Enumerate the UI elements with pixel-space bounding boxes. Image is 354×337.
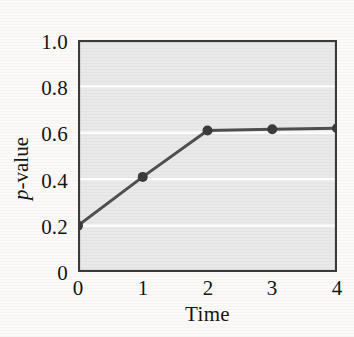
x-tick-label-2: 2	[193, 276, 223, 301]
x-axis-ticks: 0 1 2 3 4	[0, 0, 354, 337]
y-axis-title-italic-part: p	[9, 189, 33, 200]
y-axis-title-rest: -value	[9, 137, 33, 189]
x-tick-label-0: 0	[63, 276, 93, 301]
chart-figure: 1.0 0.8 0.6 0.4 0.2 0 0 1 2 3 4 p-value …	[0, 0, 354, 337]
x-tick-label-1: 1	[128, 276, 158, 301]
x-axis-title: Time	[78, 302, 337, 327]
y-axis-title: p-value	[8, 118, 34, 218]
x-tick-label-3: 3	[257, 276, 287, 301]
x-tick-label-4: 4	[322, 276, 352, 301]
